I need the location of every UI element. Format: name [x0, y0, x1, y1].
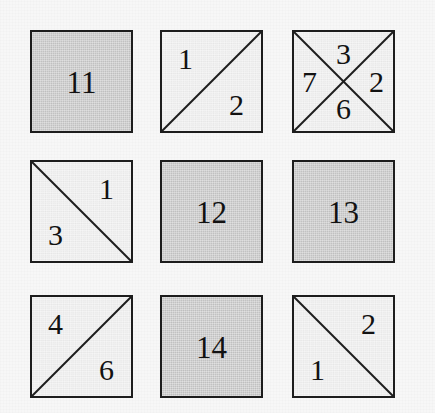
cell-label-center: 13 — [294, 196, 393, 227]
cell-label-bottom-left: 3 — [48, 220, 63, 250]
cell-label-top-left: 4 — [48, 309, 63, 339]
cell-label-west: 7 — [302, 67, 317, 97]
cell-label-center: 12 — [162, 196, 261, 227]
cell-label-center: 14 — [162, 331, 261, 362]
cell-label-east: 2 — [369, 67, 384, 97]
grid-cell-r2-c1: 14 — [160, 295, 263, 398]
grid-cell-r0-c1: 1 2 — [160, 30, 263, 133]
grid-cell-r2-c0: 4 6 — [30, 295, 133, 398]
grid-cell-r1-c2: 13 — [292, 160, 395, 263]
cell-label-south: 6 — [294, 94, 393, 124]
cell-label-bottom-right: 6 — [99, 355, 114, 385]
cell-label-center: 11 — [32, 66, 131, 97]
square-grid: 11 1 2 3 7 2 6 1 3 12 13 — [30, 30, 398, 398]
grid-cell-r2-c2: 2 1 — [292, 295, 395, 398]
cell-label-top-right: 2 — [361, 309, 376, 339]
main-diagonal-line — [294, 297, 393, 396]
grid-cell-r0-c0: 11 — [30, 30, 133, 133]
grid-cell-r1-c1: 12 — [160, 160, 263, 263]
main-diagonal-line — [32, 162, 131, 261]
cell-label-top-left: 1 — [178, 44, 193, 74]
cell-label-bottom-right: 2 — [229, 90, 244, 120]
grid-cell-r1-c0: 1 3 — [30, 160, 133, 263]
cell-label-bottom-left: 1 — [310, 355, 325, 385]
anti-diagonal-line — [162, 32, 261, 131]
cell-label-top-right: 1 — [99, 174, 114, 204]
grid-cell-r0-c2: 3 7 2 6 — [292, 30, 395, 133]
anti-diagonal-line — [32, 297, 131, 396]
